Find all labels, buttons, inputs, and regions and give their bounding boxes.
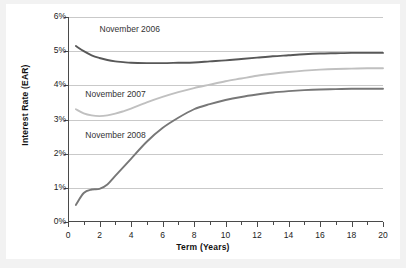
y-tick-label: 5% xyxy=(26,45,66,55)
y-tick-label: 0% xyxy=(26,216,66,226)
x-tick-mark xyxy=(289,222,290,227)
x-tick-mark xyxy=(194,222,195,227)
y-tick-label: 6% xyxy=(26,11,66,21)
series-label-1: November 2006 xyxy=(100,24,160,34)
y-tick-label: 2% xyxy=(26,148,66,158)
x-minor-tick-mark xyxy=(304,222,305,225)
x-axis-title: Term (Years) xyxy=(6,242,400,252)
x-minor-tick-mark xyxy=(367,222,368,225)
x-tick-label: 12 xyxy=(245,230,269,240)
y-tick-label: 4% xyxy=(26,79,66,89)
x-tick-label: 8 xyxy=(182,230,206,240)
x-tick-label: 0 xyxy=(56,230,80,240)
series-label-2: November 2007 xyxy=(85,89,145,99)
chart-figure: Interest Rate (EAR) Term (Years) 0%1%2%3… xyxy=(6,4,400,259)
x-tick-label: 4 xyxy=(119,230,143,240)
series-line xyxy=(76,89,383,205)
x-minor-tick-mark xyxy=(241,222,242,225)
y-tick-label: 3% xyxy=(26,114,66,124)
x-minor-tick-mark xyxy=(147,222,148,225)
x-tick-mark xyxy=(68,222,69,227)
x-tick-mark xyxy=(100,222,101,227)
series-line xyxy=(76,46,383,63)
x-tick-mark xyxy=(226,222,227,227)
x-minor-tick-mark xyxy=(210,222,211,225)
x-minor-tick-mark xyxy=(178,222,179,225)
x-tick-label: 10 xyxy=(214,230,238,240)
x-tick-label: 20 xyxy=(371,230,395,240)
x-minor-tick-mark xyxy=(273,222,274,225)
series-label-3: November 2008 xyxy=(85,130,145,140)
x-minor-tick-mark xyxy=(84,222,85,225)
series-curves xyxy=(68,17,383,222)
x-tick-label: 16 xyxy=(308,230,332,240)
x-tick-mark xyxy=(257,222,258,227)
x-tick-mark xyxy=(163,222,164,227)
y-tick-label: 1% xyxy=(26,182,66,192)
x-minor-tick-mark xyxy=(336,222,337,225)
x-tick-label: 18 xyxy=(340,230,364,240)
x-tick-label: 6 xyxy=(151,230,175,240)
plot-area: 0%1%2%3%4%5%6% 02468101214161820 Novembe… xyxy=(68,17,383,222)
x-tick-mark xyxy=(383,222,384,227)
x-minor-tick-mark xyxy=(115,222,116,225)
x-tick-mark xyxy=(352,222,353,227)
x-tick-mark xyxy=(320,222,321,227)
x-tick-mark xyxy=(131,222,132,227)
x-tick-label: 14 xyxy=(277,230,301,240)
x-tick-label: 2 xyxy=(88,230,112,240)
